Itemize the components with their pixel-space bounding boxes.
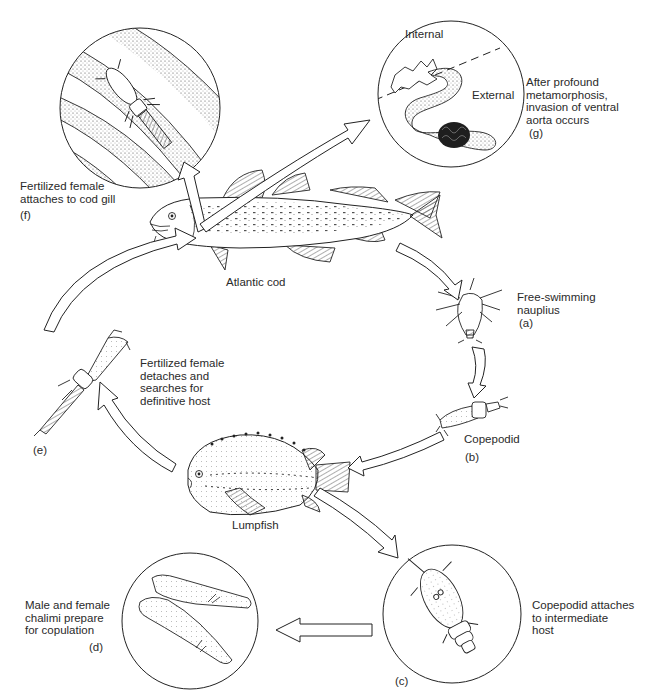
stage-b-tag: (b) [465,451,479,463]
stage-d-tag: (d) [89,641,103,653]
life-cycle-diagram: Internal External Fertilized female atta… [0,0,647,698]
internal-label: Internal [405,28,443,40]
arrow-nauplius-to-copepodid [468,347,486,398]
inset-c-copepodid-attached [383,541,521,683]
external-label: External [472,89,514,101]
stage-c-description: Copepodid attaches to intermediate host [532,599,634,637]
stage-d-description: Male and female chalimi prepare for copu… [25,599,110,637]
stage-f-tag: (f) [20,209,31,221]
arrow-copepodid-to-lumpfish [348,432,444,476]
stage-e-description: Fertilized female detaches and searches … [140,357,224,407]
stage-e-tag: (e) [33,444,47,456]
inset-d-chalimi [122,553,258,689]
stage-b-description: Copepodid [464,433,520,446]
arrow-female-e-to-cod-gill [44,228,196,332]
arrow-inset-c-to-inset-d [276,618,372,642]
stage-g-tag: (g) [529,127,543,139]
arrow-lumpfish-to-inset-c [314,488,398,558]
stage-a-description: Free-swimming nauplius [517,291,596,316]
stage-c-tag: (c) [395,675,408,687]
nauplius-illustration [436,278,502,343]
stage-g-description: After profound metamorphosis, invasion o… [526,76,619,126]
arrow-cod-to-nauplius [396,243,462,300]
stage-f-description: Fertilized female attaches to cod gill [20,180,115,205]
lumpfish-label: Lumpfish [232,519,279,532]
atlantic-cod-label: Atlantic cod [226,276,285,289]
stage-a-tag: (a) [519,317,533,329]
copepodid-illustration [436,397,508,436]
